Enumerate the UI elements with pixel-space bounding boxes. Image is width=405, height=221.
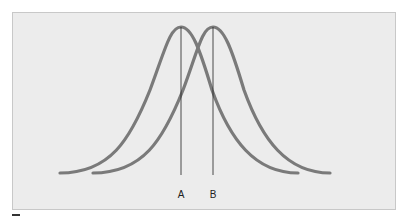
- bell-curve-2: [93, 27, 330, 173]
- bell-curves-diagram: [0, 0, 405, 221]
- corner-mark: [12, 214, 20, 216]
- marker-label-a: A: [178, 189, 185, 200]
- marker-label-b: B: [210, 189, 217, 200]
